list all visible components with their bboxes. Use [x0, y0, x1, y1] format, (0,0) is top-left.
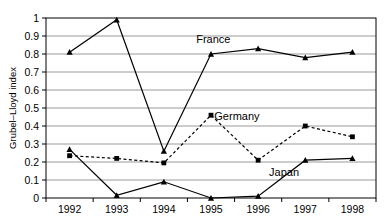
x-tick-label: 1996: [246, 203, 270, 215]
y-tick-label: 0: [33, 192, 39, 204]
y-tick-label: 0.6: [24, 84, 39, 96]
data-point-marker: [161, 161, 166, 166]
y-tick-label: 0.5: [24, 102, 39, 114]
y-axis-tick-labels: 00.10.20.30.40.50.60.70.80.91: [24, 12, 39, 204]
y-tick-label: 1: [33, 12, 39, 24]
y-tick-label: 0.3: [24, 138, 39, 150]
x-tick-label: 1994: [152, 203, 176, 215]
y-tick-label: 0.2: [24, 156, 39, 168]
y-tick-label: 0.8: [24, 48, 39, 60]
x-tick-label: 1995: [199, 203, 223, 215]
x-tick-label: 1997: [294, 203, 318, 215]
y-tick-label: 0.1: [24, 174, 39, 186]
grubel-lloyd-index-line-chart: 00.10.20.30.40.50.60.70.80.91 1992199319…: [0, 0, 385, 219]
x-tick-label: 1992: [58, 203, 82, 215]
chart-figure: 00.10.20.30.40.50.60.70.80.91 1992199319…: [0, 0, 385, 219]
series-label-japan: Japan: [269, 166, 299, 178]
data-point-marker: [303, 124, 308, 129]
chart-background: [0, 0, 385, 219]
y-tick-label: 0.9: [24, 30, 39, 42]
series-label-france: France: [196, 33, 230, 45]
x-tick-label: 1998: [341, 203, 365, 215]
series-label-germany: Germany: [214, 110, 260, 122]
y-tick-label: 0.4: [24, 120, 39, 132]
x-tick-label: 1993: [105, 203, 129, 215]
y-tick-label: 0.7: [24, 66, 39, 78]
data-point-marker: [209, 113, 214, 118]
y-axis-title: Grubel–Lloyd index: [7, 67, 18, 149]
data-point-marker: [114, 156, 119, 161]
data-point-marker: [67, 153, 72, 158]
data-point-marker: [256, 158, 261, 163]
data-point-marker: [350, 134, 355, 139]
